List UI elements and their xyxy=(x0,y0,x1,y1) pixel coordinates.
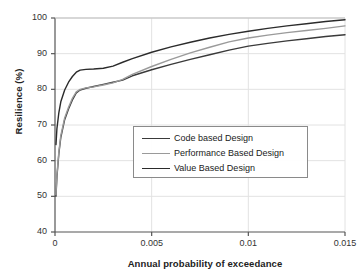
y-tick-label: 50 xyxy=(25,190,47,200)
y-tick-label: 100 xyxy=(25,12,47,22)
y-tick-label: 70 xyxy=(25,119,47,129)
legend-swatch-value-based-design xyxy=(142,168,170,169)
y-tick-label: 90 xyxy=(25,48,47,58)
x-tick-label: 0.005 xyxy=(132,238,172,248)
x-axis-title: Annual probability of exceedance xyxy=(55,258,355,269)
chart-figure: Resilience (%) Annual probability of exc… xyxy=(0,0,359,280)
legend-item-code-based-design: Code based Design xyxy=(142,131,253,145)
legend-label-value-based-design: Value Based Design xyxy=(174,163,255,173)
legend-swatch-code-based-design xyxy=(142,138,170,139)
legend-item-performance-based-design: Performance Based Design xyxy=(142,146,284,160)
x-tick-label: 0.015 xyxy=(325,238,359,248)
y-axis-title: Resilience (%) xyxy=(13,42,24,162)
x-tick-label: 0.01 xyxy=(228,238,268,248)
legend-label-code-based-design: Code based Design xyxy=(174,133,253,143)
legend-swatch-performance-based-design xyxy=(142,153,170,154)
y-tick-label: 60 xyxy=(25,155,47,165)
legend-label-performance-based-design: Performance Based Design xyxy=(174,148,284,158)
legend-item-value-based-design: Value Based Design xyxy=(142,161,255,175)
y-tick-label: 80 xyxy=(25,83,47,93)
legend: Code based Design Performance Based Desi… xyxy=(133,126,308,178)
x-tick-label: 0 xyxy=(35,238,75,248)
y-tick-label: 40 xyxy=(25,226,47,236)
